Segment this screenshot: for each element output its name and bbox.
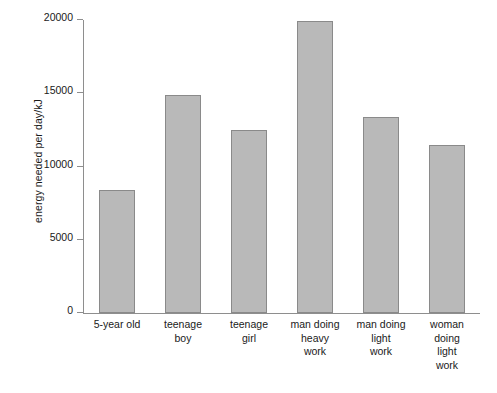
x-axis-line	[83, 313, 480, 314]
category-label: 5-year old	[84, 318, 150, 332]
y-axis-tick: 15000	[77, 92, 83, 93]
category-label: teenage girl	[216, 318, 282, 345]
category-label: man doing heavy work	[282, 318, 348, 359]
y-axis-tick: 20000	[77, 19, 83, 20]
bar-slot	[363, 20, 399, 313]
y-axis-tick: 5000	[77, 239, 83, 240]
category-label: woman doing light work	[414, 318, 480, 372]
bar-slot	[165, 20, 201, 313]
bar	[363, 117, 399, 313]
bar	[165, 95, 201, 313]
bar-slot	[297, 20, 333, 313]
y-axis-title: energy needed per day/kJ	[32, 61, 44, 261]
bar	[429, 145, 465, 313]
y-axis-tick-label: 15000	[44, 84, 73, 96]
bar	[99, 190, 135, 313]
bar-chart: energy needed per day/kJ 050001000015000…	[0, 0, 497, 393]
y-axis-tick-label: 0	[67, 304, 73, 316]
y-axis-tick-label: 5000	[50, 231, 73, 243]
category-label: teenage boy	[150, 318, 216, 345]
bar-series	[84, 20, 480, 313]
y-axis-tick: 0	[77, 312, 83, 313]
y-axis-tick-label: 20000	[44, 11, 73, 23]
bar-slot	[429, 20, 465, 313]
x-axis-category-labels: 5-year oldteenage boyteenage girlman doi…	[84, 318, 480, 390]
y-axis-tick: 10000	[77, 166, 83, 167]
y-axis-tick-label: 10000	[44, 158, 73, 170]
bar-slot	[99, 20, 135, 313]
bar	[297, 21, 333, 313]
bar	[231, 130, 267, 313]
bar-slot	[231, 20, 267, 313]
plot-area: 05000100001500020000	[83, 20, 480, 313]
category-label: man doing light work	[348, 318, 414, 359]
